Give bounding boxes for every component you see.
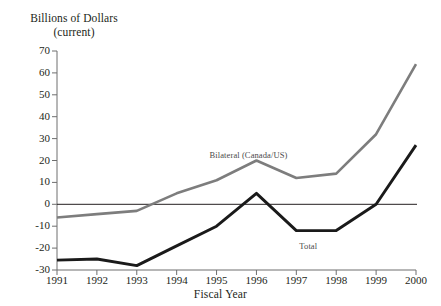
x-axis-tick-label: 1995 <box>197 274 237 286</box>
y-axis-tick-label: -20 <box>24 241 50 253</box>
x-axis-tick-label: 1997 <box>276 274 316 286</box>
y-axis-tick-label: -10 <box>24 219 50 231</box>
x-axis-tick-label: 1999 <box>356 274 396 286</box>
y-axis-tick-label: 40 <box>24 110 50 122</box>
x-axis-tick-label: 1994 <box>157 274 197 286</box>
y-axis-tick-label: 70 <box>24 44 50 56</box>
x-axis-tick-label: 1992 <box>77 274 117 286</box>
x-axis-tick-label: 1998 <box>316 274 356 286</box>
y-axis-tick-label: 10 <box>24 175 50 187</box>
x-axis-tick-label: 2000 <box>396 274 436 286</box>
series-line-bilateral <box>57 64 416 217</box>
series-label-bilateral: Bilateral (Canada/US) <box>210 150 288 160</box>
x-axis-tick-label: 1993 <box>117 274 157 286</box>
series-label-total: Total <box>299 241 317 251</box>
y-axis-tick-label: 60 <box>24 66 50 78</box>
y-axis-tick-label: 0 <box>24 197 50 209</box>
y-axis-tick-label: 50 <box>24 88 50 100</box>
x-axis-tick-label: 1991 <box>37 274 77 286</box>
y-axis-ticks <box>52 51 57 270</box>
y-axis-tick-label: 30 <box>24 132 50 144</box>
x-axis-tick-label: 1996 <box>236 274 276 286</box>
chart-container: Billions of Dollars (current) 7060504030… <box>0 0 441 306</box>
series-line-total <box>57 145 416 265</box>
x-axis-title: Fiscal Year <box>0 288 441 300</box>
y-axis-tick-label: 20 <box>24 154 50 166</box>
